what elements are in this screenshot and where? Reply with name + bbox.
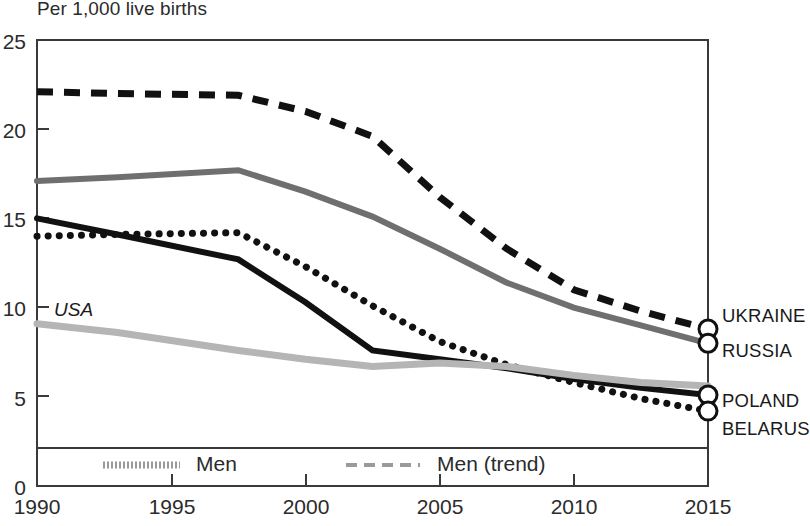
endpoint-marker-belarus	[699, 402, 717, 420]
y-axis-ticks	[37, 129, 49, 396]
series-label-russia: RUSSIA	[722, 340, 792, 362]
series-line-ukraine	[37, 92, 708, 329]
series-label-belarus: BELARUS	[722, 418, 810, 440]
legend-label-men-trend: Men (trend)	[437, 452, 546, 476]
endpoint-marker-russia	[699, 334, 717, 352]
series-line-russia	[37, 170, 708, 343]
series-line-usa	[37, 324, 708, 386]
series-label-ukraine: UKRAINE	[722, 305, 806, 327]
legend-label-men: Men	[196, 452, 237, 476]
plot-frame	[37, 40, 708, 486]
series-label-poland: POLAND	[722, 390, 799, 412]
annotation-usa: USA	[54, 299, 93, 321]
series-layer	[37, 92, 717, 420]
